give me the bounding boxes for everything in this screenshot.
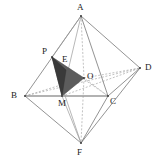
- vertex-dot-B: [24, 95, 26, 97]
- vertex-label-C: C: [110, 97, 116, 106]
- edge-O-F: [81, 78, 84, 143]
- vertex-label-P: P: [42, 47, 47, 56]
- vertex-dot-A: [80, 15, 82, 17]
- edge-A-O: [81, 16, 84, 78]
- vertex-dot-C: [107, 95, 109, 97]
- vertex-label-A: A: [77, 3, 84, 12]
- vertex-label-D: D: [145, 63, 152, 72]
- edge-B-D: [25, 68, 140, 96]
- vertex-label-E: E: [62, 55, 68, 64]
- octahedron-svg: [0, 0, 161, 168]
- edge-A-P: [52, 16, 81, 57]
- vertex-dot-O: [83, 77, 85, 79]
- vertex-label-F: F: [77, 148, 82, 157]
- vertex-label-B: B: [11, 91, 17, 100]
- geometry-figure: A B C D F O P E M: [0, 0, 161, 168]
- vertex-dot-F: [80, 142, 82, 144]
- vertex-dot-D: [139, 67, 141, 69]
- edge-C-F: [81, 96, 108, 143]
- vertex-dot-M: [61, 95, 63, 97]
- vertex-label-O: O: [87, 72, 94, 81]
- edge-B-F: [25, 96, 81, 143]
- vertex-dot-P: [51, 56, 53, 58]
- vertex-label-M: M: [58, 99, 66, 108]
